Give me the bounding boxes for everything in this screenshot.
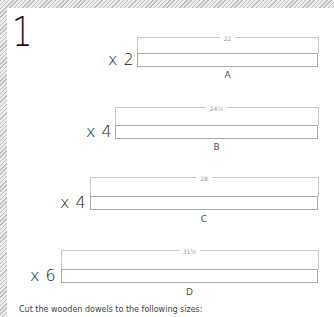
length-label: 24½ [206,104,227,111]
quantity-label: x 6 [30,266,56,285]
piece-letter: C [201,214,207,224]
dimension-tick [318,37,319,53]
quantity-label: x 4 [86,122,112,141]
dowel-bar [115,125,318,139]
dowel-bar [61,269,318,283]
dowel-bar [90,196,318,210]
dimension-tick [137,37,138,53]
length-label: 22 [220,34,236,41]
dimension-tick [318,107,319,125]
dowel-bar [137,53,318,67]
instruction-text: Cut the wooden dowels to the following s… [19,305,202,314]
step-number: 1 [12,14,32,50]
dimension-tick [115,107,116,125]
piece-letter: B [213,142,219,152]
piece-letter: A [224,70,230,80]
dimension-tick [90,177,91,196]
dimension-tick [318,177,319,196]
piece-letter: D [186,287,193,297]
quantity-label: x 4 [60,193,86,212]
dimension-tick [61,250,62,269]
quantity-label: x 2 [108,50,134,69]
length-label: 28 [196,174,212,181]
length-label: 31½ [179,247,200,254]
dimension-tick [318,250,319,269]
